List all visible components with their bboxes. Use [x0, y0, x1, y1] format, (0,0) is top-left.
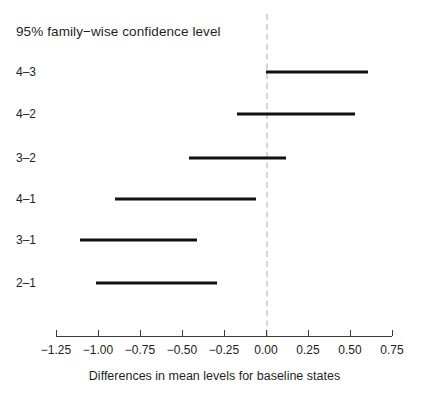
x-axis-tick-label: −1.25: [41, 343, 71, 357]
x-axis-title: Differences in mean levels for baseline …: [0, 369, 429, 383]
x-axis-tick-label: −0.25: [209, 343, 239, 357]
confidence-interval-bar: [80, 239, 198, 242]
x-axis-tick-label: −1.00: [83, 343, 113, 357]
x-axis-tick: [98, 330, 99, 336]
interval-row-label: 4–2: [16, 107, 36, 121]
x-axis-tick-label: −0.75: [125, 343, 155, 357]
interval-row-label: 2–1: [16, 276, 36, 290]
x-axis-tick: [350, 330, 351, 336]
x-axis-tick-label: 0.50: [338, 343, 361, 357]
x-axis-tick: [392, 330, 393, 336]
x-axis-tick: [308, 330, 309, 336]
x-axis-tick-label: −0.50: [167, 343, 197, 357]
x-axis-tick: [266, 330, 267, 336]
confidence-interval-bar: [237, 113, 355, 116]
interval-row-label: 4–3: [16, 65, 36, 79]
x-axis-tick-label: 0.00: [254, 343, 277, 357]
x-axis-tick: [140, 330, 141, 336]
confidence-interval-bar: [115, 197, 256, 200]
x-axis-tick-label: 0.25: [296, 343, 319, 357]
x-axis-tick: [182, 330, 183, 336]
x-axis-tick: [224, 330, 225, 336]
interval-row-label: 3–1: [16, 233, 36, 247]
interval-row-label: 4–1: [16, 192, 36, 206]
page-title: 95% family−wise confidence level: [16, 24, 221, 39]
x-axis-tick-label: 0.75: [380, 343, 403, 357]
confidence-interval-bar: [96, 282, 217, 285]
zero-reference-line: [266, 14, 268, 336]
interval-row-label: 3–2: [16, 151, 36, 165]
confidence-interval-bar: [189, 157, 286, 160]
x-axis-line: [56, 336, 392, 337]
confidence-interval-plot: 95% family−wise confidence level 4–34–23…: [0, 0, 429, 400]
x-axis-tick: [56, 330, 57, 336]
confidence-interval-bar: [266, 70, 368, 73]
